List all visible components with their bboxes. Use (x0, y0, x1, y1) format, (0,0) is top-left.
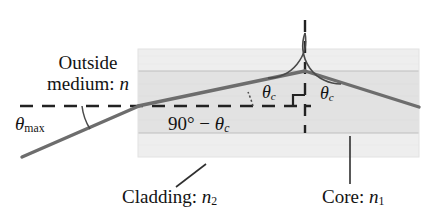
theta-max-arc (82, 106, 90, 129)
outside-medium-line1: Outside (58, 52, 117, 73)
outside-medium-label: Outside medium: n (23, 52, 153, 95)
core-prefix: Core: (322, 186, 369, 207)
theta-c-incident-label: θc (262, 82, 276, 102)
theta-symbol: θ (215, 113, 224, 134)
cladding-prefix: Cladding: (122, 186, 202, 207)
theta-c-subscript: c (224, 122, 229, 135)
theta-symbol: θ (262, 82, 271, 102)
optical-fiber-acceptance-angle-figure: Outside medium: n θmax 90° − θc θc θc Cl… (0, 0, 426, 218)
theta-symbol: θ (15, 113, 24, 134)
outside-medium-line2: medium: n (23, 73, 153, 94)
theta-max-subscript: max (24, 122, 44, 135)
outside-medium-prefix: medium: (47, 73, 119, 94)
ninety-minus-theta-c-label: 90° − θc (168, 113, 229, 134)
theta-c-subscript: c (329, 91, 334, 103)
theta-c-reflected-label: θc (320, 83, 334, 103)
cladding-index-subscript: 2 (211, 195, 217, 208)
cladding-index-symbol: n (202, 186, 212, 207)
theta-c-subscript: c (271, 90, 276, 102)
cladding-leader-line (176, 164, 206, 187)
cladding-label: Cladding: n2 (122, 186, 217, 207)
outside-medium-index-symbol: n (119, 73, 129, 94)
cladding-band-upper (138, 49, 419, 71)
theta-max-label: θmax (15, 113, 45, 134)
theta-symbol: θ (320, 83, 329, 103)
ninety-degrees-prefix: 90° − (168, 113, 215, 134)
core-label: Core: n1 (322, 186, 384, 207)
core-index-subscript: 1 (378, 195, 384, 208)
